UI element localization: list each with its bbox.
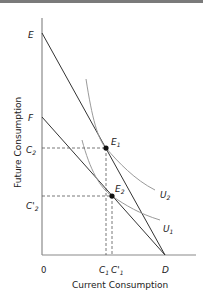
budget-line-FD [42, 117, 165, 255]
label-e2: E2 [115, 184, 125, 195]
label-c2: C2 [26, 145, 36, 156]
label-c1: C1 [99, 265, 109, 276]
point-e2 [109, 193, 114, 198]
y-axis-title: Future Consumption [13, 97, 23, 188]
label-e: E [28, 30, 34, 40]
label-d: D [162, 265, 169, 275]
label-u2: U2 [160, 190, 171, 201]
point-e1 [103, 145, 108, 150]
label-e1: E1 [111, 137, 121, 148]
label-c2-prime: C'2 [26, 201, 39, 212]
label-origin: 0 [41, 265, 46, 275]
indifference-curve-u2 [86, 79, 155, 190]
label-u1: U1 [163, 224, 173, 235]
label-c1-prime: C'1 [111, 265, 124, 276]
label-f: F [28, 113, 34, 123]
x-axis-title: Current Consumption [72, 280, 168, 290]
indifference-curve-u1 [82, 140, 160, 220]
intertemporal-choice-diagram: E F D 0 E1 E2 C2 C'2 C1 C'1 U2 U1 Curren… [0, 0, 203, 305]
